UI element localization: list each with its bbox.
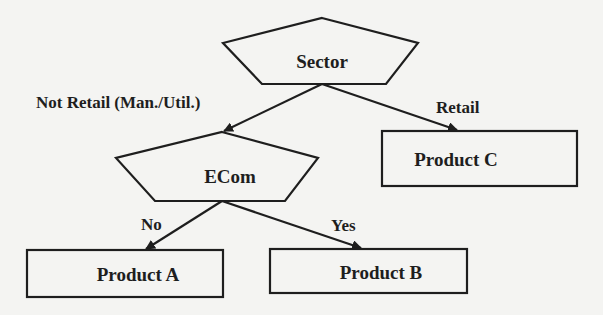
- product-a-node: Product A: [27, 250, 223, 297]
- edge-line: [224, 84, 322, 131]
- decision-tree-diagram: Sector Not Retail (Man./Util.) Retail EC…: [0, 0, 603, 315]
- ecom-node: ECom: [116, 132, 318, 201]
- product-b-node: Product B: [270, 249, 467, 293]
- product-a-label: Product A: [97, 264, 180, 285]
- product-c-label: Product C: [414, 149, 498, 170]
- product-b-label: Product B: [340, 262, 423, 283]
- edge-retail: Retail: [322, 84, 480, 130]
- sector-node: Sector: [223, 18, 418, 84]
- edge-yes: Yes: [222, 201, 361, 248]
- edge-label-not-retail: Not Retail (Man./Util.): [36, 93, 200, 112]
- edge-label-retail: Retail: [436, 98, 480, 117]
- ecom-label: ECom: [204, 166, 256, 187]
- edge-not-retail: Not Retail (Man./Util.): [36, 84, 322, 131]
- edge-label-yes: Yes: [331, 216, 356, 235]
- product-c-node: Product C: [382, 131, 577, 186]
- edge-label-no: No: [141, 215, 162, 234]
- edge-no: No: [141, 201, 222, 249]
- sector-label: Sector: [296, 51, 348, 72]
